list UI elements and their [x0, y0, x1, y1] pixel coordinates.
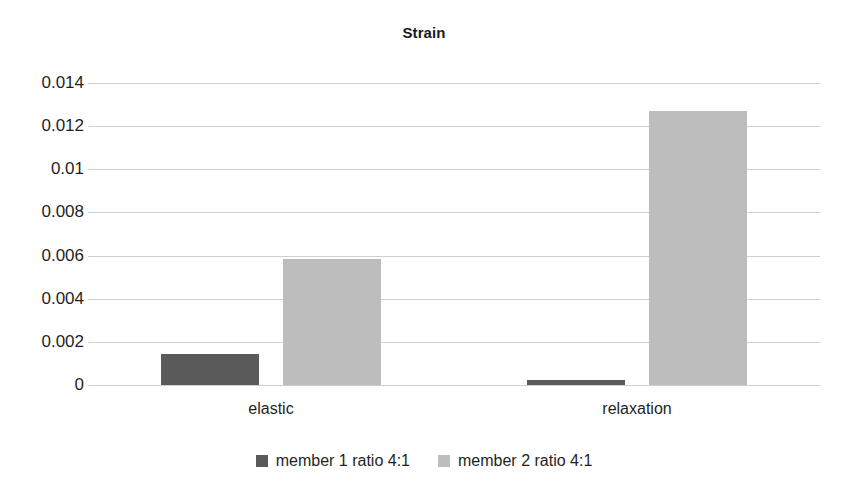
- legend-swatch-icon: [256, 455, 268, 467]
- y-axis-tick-label: 0.002: [6, 332, 84, 352]
- x-axis-label-relaxation: relaxation: [537, 400, 737, 418]
- y-axis-tick-label: 0.014: [6, 73, 84, 93]
- chart-container: Strain 00.0020.0040.0060.0080.010.0120.0…: [0, 0, 848, 502]
- x-axis-label-elastic: elastic: [171, 400, 371, 418]
- gridline: [88, 385, 820, 386]
- chart-legend: member 1 ratio 4:1member 2 ratio 4:1: [0, 452, 848, 470]
- chart-title: Strain: [0, 24, 848, 41]
- y-axis-tick-label: 0.004: [6, 289, 84, 309]
- bar[interactable]: [527, 380, 625, 385]
- legend-item[interactable]: member 2 ratio 4:1: [438, 452, 592, 470]
- bar[interactable]: [161, 354, 259, 385]
- legend-label: member 2 ratio 4:1: [458, 452, 592, 470]
- bar[interactable]: [649, 111, 747, 385]
- y-axis-tick-label: 0: [6, 375, 84, 395]
- y-axis: 00.0020.0040.0060.0080.010.0120.014: [0, 83, 84, 385]
- y-axis-tick-label: 0.01: [6, 159, 84, 179]
- y-axis-tick-label: 0.006: [6, 246, 84, 266]
- y-axis-tick-label: 0.012: [6, 116, 84, 136]
- bar[interactable]: [283, 259, 381, 385]
- legend-label: member 1 ratio 4:1: [276, 452, 410, 470]
- y-axis-tick-label: 0.008: [6, 202, 84, 222]
- gridline: [88, 83, 820, 84]
- legend-swatch-icon: [438, 455, 450, 467]
- plot-area: [88, 83, 820, 385]
- legend-item[interactable]: member 1 ratio 4:1: [256, 452, 410, 470]
